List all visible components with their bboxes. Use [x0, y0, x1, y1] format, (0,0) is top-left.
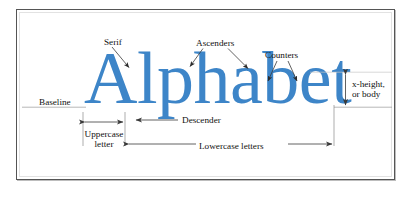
label-ascenders: Ascenders	[196, 38, 234, 48]
label-baseline: Baseline	[39, 97, 71, 107]
guide-rules	[22, 72, 392, 107]
label-counters: Counters	[265, 50, 298, 60]
label-uppercase-letter: Uppercase letter	[82, 129, 126, 149]
label-x-height-line2: or body	[352, 89, 380, 99]
label-descender: Descender	[182, 115, 221, 125]
serif-leader	[112, 47, 129, 68]
label-uppercase-line1: Uppercase	[85, 129, 124, 139]
typography-anatomy-figure: Alphabet	[0, 0, 413, 199]
counters-leaders	[268, 61, 297, 81]
ascenders-leaders	[190, 49, 248, 69]
label-x-height: x-height, or body	[352, 79, 392, 99]
label-serif: Serif	[104, 37, 122, 47]
label-lowercase-letters: Lowercase letters	[199, 141, 264, 151]
label-x-height-line1: x-height,	[352, 79, 385, 89]
label-uppercase-line2: letter	[95, 139, 114, 149]
